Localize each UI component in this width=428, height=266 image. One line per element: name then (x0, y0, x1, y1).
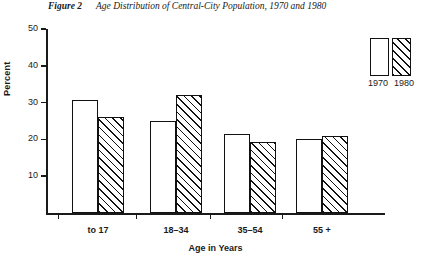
legend-swatch-1970 (370, 38, 389, 76)
figure-title: Age Distribution of Central-City Populat… (96, 1, 326, 11)
legend-label-1970: 1970 (368, 78, 388, 88)
y-axis-line (46, 29, 48, 213)
figure-number: Figure 2 (48, 1, 82, 11)
plot-area: 1020304050 to 1718–3435–5455 + Age in Ye… (46, 29, 385, 213)
y-tick-label-40: 40 (18, 60, 38, 70)
bar-1980-55- (322, 136, 348, 213)
figure-container: Figure 2Age Distribution of Central-City… (0, 0, 428, 266)
figure-caption: Figure 2Age Distribution of Central-City… (48, 1, 326, 11)
y-tick-40 (41, 65, 46, 67)
bar-1980-35-54 (250, 142, 276, 213)
y-tick-label-50: 50 (18, 23, 38, 33)
legend-swatch-1980 (392, 38, 411, 76)
x-tick-label-18-34: 18–34 (142, 225, 210, 235)
y-tick-30 (41, 102, 46, 104)
legend: 1970 1980 (370, 38, 418, 90)
x-axis-label: Age in Years (46, 243, 385, 253)
y-tick-20 (41, 139, 46, 141)
x-tick-3 (282, 213, 283, 219)
y-tick-10 (41, 175, 46, 177)
x-axis-line (46, 213, 385, 215)
x-tick-label-35-54: 35–54 (216, 225, 284, 235)
x-tick-1 (136, 213, 137, 219)
x-tick-2 (210, 213, 211, 219)
y-tick-label-10: 10 (18, 170, 38, 180)
y-tick-50 (41, 28, 46, 30)
x-tick-label-to-17: to 17 (64, 225, 132, 235)
y-tick-label-20: 20 (18, 133, 38, 143)
bar-1980-18-34 (176, 95, 202, 213)
y-tick-label-30: 30 (18, 97, 38, 107)
legend-labels: 1970 1980 (370, 78, 418, 90)
legend-swatches (370, 38, 418, 76)
x-tick-0 (58, 213, 59, 219)
y-axis-label: Percent (2, 62, 12, 96)
legend-label-1980: 1980 (394, 78, 414, 88)
bar-1980-to-17 (98, 117, 124, 213)
bar-1970-18-34 (150, 121, 176, 213)
bar-1970-to-17 (72, 100, 98, 213)
bar-1970-35-54 (224, 134, 250, 213)
bar-1970-55- (296, 139, 322, 213)
x-tick-label-55-: 55 + (288, 225, 356, 235)
